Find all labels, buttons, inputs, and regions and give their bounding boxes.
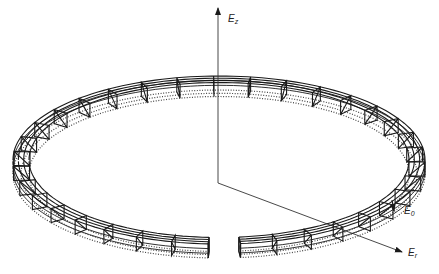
ring-side-strand: [241, 169, 426, 253]
ring-side-strand: [13, 85, 425, 169]
ring-cross-frame: [21, 137, 36, 153]
ring-cross-frame: [20, 180, 35, 196]
ring-top-strand: [240, 160, 420, 241]
ring-cross-frame: [54, 110, 67, 128]
ring-side-strand: [13, 81, 425, 165]
ring-top-strand: [18, 78, 419, 160]
ring-cross-frame: [365, 106, 377, 124]
ring-bottom-strand-dotted: [21, 93, 417, 174]
svg-text:E0: E0: [404, 205, 415, 217]
ring-side-strand: [13, 171, 208, 253]
ring-cross-frame: [177, 78, 180, 98]
ring-top-strand: [239, 160, 409, 237]
ring-top-strand: [239, 160, 414, 239]
ring-end-cap: [208, 237, 209, 258]
ring-top-strand: [24, 161, 209, 239]
ring-cross-frame: [281, 81, 286, 101]
figure-canvas: Ez Er E0: [0, 0, 439, 274]
svg-text:Er: Er: [408, 247, 418, 259]
ring-bottom-strand-dotted: [29, 97, 409, 175]
ring-back-half: [13, 76, 425, 174]
ring-cross-frame: [304, 229, 311, 249]
ring-diagram: Ez Er E0: [0, 0, 439, 274]
ring-cross-frame: [248, 77, 250, 97]
ring-front-half: [13, 160, 425, 258]
ring-top-strand: [29, 83, 409, 161]
ring-cross-frame: [136, 231, 142, 251]
z-axis-label: Ez: [228, 13, 239, 25]
theta-axis-label: E0: [404, 205, 415, 217]
ring-top-strand: [13, 76, 425, 160]
r-axis-label: Er: [408, 247, 418, 259]
svg-text:Ez: Ez: [228, 13, 239, 25]
ring-end-cap: [239, 237, 241, 257]
